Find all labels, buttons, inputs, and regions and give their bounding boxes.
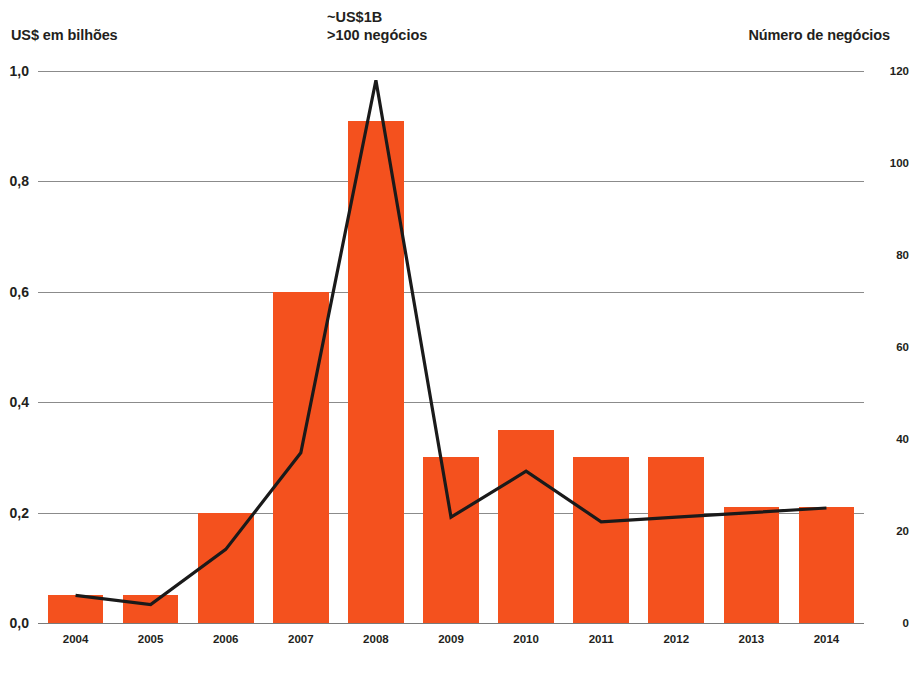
annotation-line-2: >100 negócios [327,26,427,44]
right-axis-title: Número de negócios [748,27,890,43]
right-tick-label: 120 [875,65,909,77]
x-label-2004: 2004 [63,633,89,645]
x-label-2014: 2014 [814,633,840,645]
right-tick-label: 100 [875,157,909,169]
x-label-2005: 2005 [138,633,164,645]
x-axis-labels: 2004200520062007200820092010201120122013… [38,633,864,659]
left-axis-title: US$ em bilhões [11,27,118,43]
right-tick-label: 0 [875,617,909,629]
x-label-2008: 2008 [363,633,389,645]
gridline-0 [38,623,864,624]
x-label-2006: 2006 [213,633,239,645]
line-series-layer [38,71,864,623]
left-tick-label: 0,8 [10,173,29,189]
x-label-2013: 2013 [739,633,765,645]
left-tick-label: 0,4 [10,394,29,410]
x-label-2012: 2012 [663,633,689,645]
deals-line [76,80,827,604]
plot-area: 0,00,20,40,60,81,0020406080100120 [38,71,864,623]
x-label-2011: 2011 [589,633,614,645]
left-tick-label: 0,2 [10,505,29,521]
right-tick-label: 20 [875,525,909,537]
left-tick-label: 0,0 [10,615,29,631]
right-tick-label: 40 [875,433,909,445]
peak-annotation: ~US$1B >100 negócios [327,8,427,45]
right-tick-label: 80 [875,249,909,261]
left-tick-label: 1,0 [10,63,29,79]
left-tick-label: 0,6 [10,284,29,300]
x-label-2010: 2010 [513,633,539,645]
x-label-2007: 2007 [288,633,314,645]
right-tick-label: 60 [875,341,909,353]
annotation-line-1: ~US$1B [327,8,427,26]
x-label-2009: 2009 [438,633,464,645]
